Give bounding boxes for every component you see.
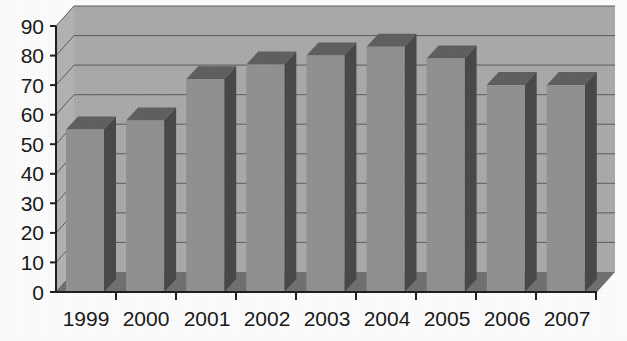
bar-side-face: [164, 108, 176, 292]
y-tick-label: 80: [21, 44, 44, 67]
y-tick-label: 20: [21, 221, 44, 244]
y-tick-label: 0: [32, 281, 44, 304]
x-tick-labels: 1999 2000 2001 2002 2003 2004 2005 2006 …: [63, 307, 591, 330]
bar-2000: [126, 108, 176, 292]
y-tick-labels: 0 10 20 30 40 50 60 70 80 90: [21, 15, 44, 304]
bar-2004: [367, 34, 417, 292]
y-tick-label: 50: [21, 133, 44, 156]
bar-front-face: [547, 85, 585, 292]
x-tick-label: 1999: [63, 307, 110, 330]
bar-front-face: [427, 59, 465, 292]
x-tick-label: 2006: [484, 307, 531, 330]
x-tick-label: 2001: [184, 307, 231, 330]
bar-side-face: [224, 66, 236, 292]
bar-side-face: [284, 51, 296, 292]
bar-chart-3d: 0 10 20 30 40 50 60 70 80 90 1999 2000 2…: [0, 0, 627, 341]
x-tick-label: 2003: [304, 307, 351, 330]
bar-front-face: [126, 121, 164, 292]
bar-side-face: [104, 116, 116, 292]
y-tick-label: 60: [21, 103, 44, 126]
y-tick-label: 40: [21, 162, 44, 185]
bar-side-face: [525, 72, 537, 292]
bar-front-face: [66, 129, 104, 292]
bar-front-face: [306, 56, 344, 292]
x-tick-label: 2002: [244, 307, 291, 330]
bar-2005: [427, 46, 477, 292]
bar-side-face: [465, 46, 477, 292]
bar-2002: [246, 51, 296, 292]
x-tick-label: 2000: [123, 307, 170, 330]
bar-front-face: [487, 85, 525, 292]
x-tick-label: 2004: [364, 307, 411, 330]
bar-side-face: [585, 72, 597, 292]
bar-2006: [487, 72, 537, 292]
y-tick-label: 30: [21, 192, 44, 215]
bar-side-face: [405, 34, 417, 292]
x-tick-marks: [116, 292, 596, 300]
bar-front-face: [186, 79, 224, 292]
y-tick-label: 90: [21, 15, 44, 38]
bar-1999: [66, 116, 116, 292]
bar-2003: [306, 43, 356, 292]
bar-2007: [547, 72, 597, 292]
bar-2001: [186, 66, 236, 292]
bar-front-face: [246, 64, 284, 292]
y-tick-label: 70: [21, 74, 44, 97]
bar-front-face: [367, 47, 405, 292]
x-tick-label: 2005: [424, 307, 471, 330]
chart-container: 0 10 20 30 40 50 60 70 80 90 1999 2000 2…: [0, 0, 627, 341]
x-tick-label: 2007: [544, 307, 591, 330]
bar-side-face: [344, 43, 356, 292]
y-tick-label: 10: [21, 251, 44, 274]
